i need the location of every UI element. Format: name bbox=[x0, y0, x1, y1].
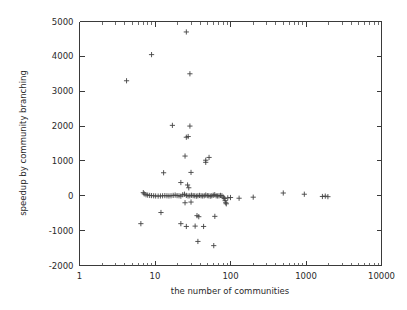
y-axis-title: speedup by community branching bbox=[18, 70, 28, 216]
x-tick-label: 10 bbox=[150, 271, 161, 281]
y-tick-label: -1000 bbox=[49, 226, 74, 236]
y-tick-label: -2000 bbox=[49, 261, 74, 271]
scatter-plot-svg: 110100100010000 -2000-100001000200030004… bbox=[0, 0, 407, 310]
x-tick-label: 100 bbox=[222, 271, 238, 281]
x-axis-title: the number of communities bbox=[171, 286, 290, 296]
chart-figure: 110100100010000 -2000-100001000200030004… bbox=[0, 0, 407, 310]
y-tick-label: 4000 bbox=[52, 51, 74, 61]
y-tick-label: 5000 bbox=[52, 17, 74, 27]
x-tick-label: 10000 bbox=[368, 271, 395, 281]
y-tick-label: 1000 bbox=[52, 156, 74, 166]
x-tick-label: 1 bbox=[77, 271, 82, 281]
y-tick-label: 2000 bbox=[52, 121, 74, 131]
y-tick-label: 0 bbox=[68, 191, 73, 201]
y-tick-label: 3000 bbox=[52, 86, 74, 96]
x-tick-label: 1000 bbox=[295, 271, 317, 281]
